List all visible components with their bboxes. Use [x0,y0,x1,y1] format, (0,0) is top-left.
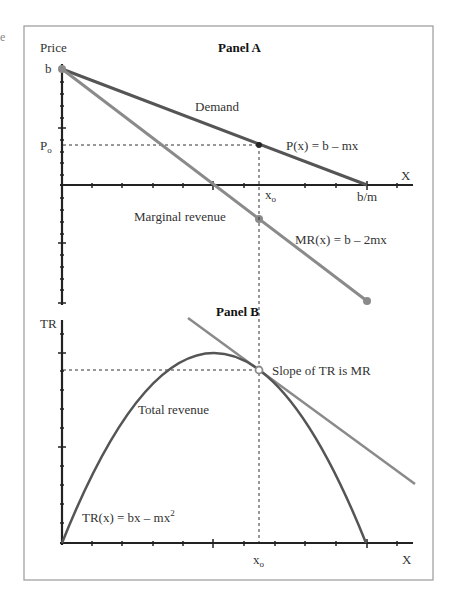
price-axis-label: Price [40,40,67,55]
b-point [58,65,66,73]
panel-a-title: Panel A [218,40,262,55]
slope-label: Slope of TR is MR [272,363,371,378]
panel-a-x-axis-label: X [401,168,411,183]
tr-label: Total revenue [138,402,209,417]
tr-equation: TR(x) = bx – mx2 [82,508,175,525]
panel-b-title: Panel B [216,304,259,319]
demand-label: Demand [195,99,240,114]
mr-end-point [363,297,371,305]
b-label: b [45,61,52,76]
mr-equation: MR(x) = b – 2mx [295,232,387,247]
tr-axis-label: TR [40,316,57,331]
tangent-point [256,367,263,374]
mr-label: Marginal revenue [134,209,226,224]
bm-label: b/m [357,189,377,204]
revenue-diagram: Panel A Price b Po X x [0,0,453,599]
demand-equation: P(x) = b – mx [286,138,359,153]
panel-b-x-axis-label: X [402,552,412,567]
